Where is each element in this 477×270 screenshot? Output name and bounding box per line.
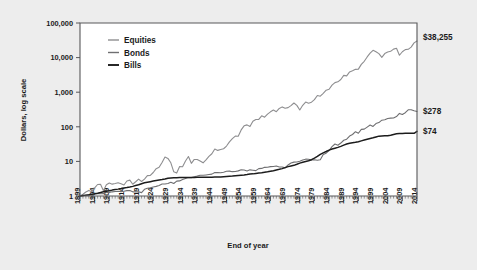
x-tick-label: 1954	[234, 187, 243, 204]
chart-container: 100,00010,0001,000100101 189919041909191…	[0, 0, 477, 270]
y-tick-label: 100,000	[46, 19, 73, 28]
legend-label-equities: Equities	[124, 36, 156, 45]
y-tick-label: 100	[61, 123, 73, 132]
x-axis-title: End of year	[227, 241, 268, 250]
x-tick-label: 2014	[410, 187, 419, 204]
x-tick-label: 1974	[293, 187, 302, 204]
x-tick-label: 1944	[205, 187, 214, 204]
y-axis-title: Dollars, log scale	[19, 79, 28, 141]
x-tick-label: 1924	[146, 187, 155, 204]
x-tick-label: 2004	[381, 187, 390, 204]
y-tick-label: 1,000	[55, 88, 74, 97]
end-label-bills: $74	[423, 127, 437, 136]
y-tick-label: 10,000	[50, 53, 73, 62]
legend-label-bonds: Bonds	[124, 49, 150, 58]
y-tick-label: 10	[65, 157, 73, 166]
x-tick-label: 1964	[263, 187, 272, 204]
x-tick-label: 1934	[176, 187, 185, 204]
end-label-bonds: $278	[423, 107, 442, 116]
x-tick-label: 1994	[351, 187, 360, 204]
growth-of-one-dollar-log-chart: 100,00010,0001,000100101 189919041909191…	[0, 0, 477, 270]
legend-label-bills: Bills	[124, 61, 142, 70]
x-tick-label: 1984	[322, 187, 331, 204]
end-label-equities: $38,255	[423, 33, 453, 42]
